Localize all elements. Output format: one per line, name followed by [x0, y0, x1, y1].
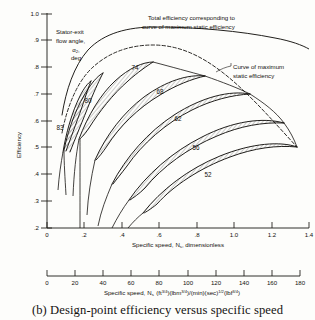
fan-tail-52 [128, 213, 143, 228]
y-tick-label-8: 1.0 [31, 10, 40, 17]
x-primary-title-tail: , dimensionless [182, 241, 224, 248]
x2-tick-label-8: 160 [267, 279, 278, 286]
y-axis-ticks [41, 14, 52, 228]
x2-title-symbol-sub: s [152, 292, 154, 297]
fan-tail-74 [73, 139, 79, 196]
max-static-efficiency-annotation: Curve of maximum static efficiency [216, 63, 284, 79]
fan-tail-62 [98, 184, 112, 226]
x-tick-label-2: .4 [119, 231, 125, 238]
contour-label-74: 74 [131, 64, 139, 71]
x-axis-secondary-tick-labels: 0 20 40 60 80 100 120 140 160 180 [45, 279, 305, 286]
x-axis-primary-ticks [47, 222, 309, 228]
max-static-line2: static efficiency [233, 72, 275, 79]
x2-units-base-2: )(lbm [167, 289, 181, 296]
fan-tail-56 [112, 200, 129, 228]
y-tick-label-3: .5 [34, 143, 40, 150]
x2-tick-label-9: 180 [295, 279, 306, 286]
x-tick-label-3: .6 [156, 231, 162, 238]
fan-tail-80 [64, 150, 66, 195]
x2-units-base-4: (lbf [224, 289, 233, 296]
x-primary-title-text: Specific speed, [132, 241, 174, 248]
total-eff-line1: Total efficiency corresponding to [148, 14, 236, 21]
x2-tick-label-4: 80 [156, 279, 163, 286]
x2-tick-label-7: 140 [239, 279, 250, 286]
svg-text:Specific speed,Ns, dimensionle: Specific speed,Ns, dimensionless [132, 241, 224, 249]
svg-text:Specific speed,Ns(ft3/4)(lbm3/: Specific speed,Ns(ft3/4)(lbm3/4)/(min)(s… [104, 289, 240, 297]
x2-title-text: Specific speed, [104, 289, 146, 296]
stator-exit-line3: deg [71, 54, 81, 61]
contour-band-52 [143, 144, 297, 213]
x-tick-label-1: .2 [81, 231, 87, 238]
contour-label-68: 68 [156, 88, 164, 95]
stator-exit-flow-angle-annotation: Stator-exit flow angle, α2, deg [56, 28, 85, 61]
y-axis-tick-labels: .2 .3 .4 .5 .6 .7 .8 .9 1.0 [31, 10, 40, 231]
y-tick-label-2: .4 [34, 170, 40, 177]
total-eff-line2: curve of maximum static efficiency [142, 23, 236, 30]
x-tick-label-5: 1.0 [230, 231, 239, 238]
y-tick-label-4: .6 [34, 117, 40, 124]
stator-exit-line2: flow angle, [56, 37, 85, 44]
x-tick-label-6: 1.2 [268, 231, 277, 238]
x-axis-primary-tick-labels: 0 .2 .4 .6 .8 1.0 1.2 1.4 [45, 231, 314, 238]
efficiency-contour-chart: .2 .3 .4 .5 .6 .7 .8 .9 1.0 Efficiency 0… [0, 0, 315, 320]
y-tick-label-6: .8 [34, 63, 40, 70]
figure-panel: .2 .3 .4 .5 .6 .7 .8 .9 1.0 Efficiency 0… [0, 0, 315, 320]
contour-label-52: 52 [204, 171, 212, 178]
x2-tick-label-1: 20 [72, 279, 79, 286]
y-tick-label-1: .3 [34, 197, 40, 204]
figure-caption: (b) Design-point efficiency versus speci… [0, 303, 315, 318]
x-tick-label-0: 0 [45, 231, 49, 238]
x2-tick-label-2: 40 [100, 279, 107, 286]
x-axis-primary-title: Specific speed,Ns, dimensionless [132, 241, 224, 249]
x2-tick-label-3: 60 [128, 279, 135, 286]
contour-label-83: 83 [56, 124, 64, 131]
x-tick-label-4: .8 [194, 231, 200, 238]
contour-curve-52-lower [143, 144, 297, 213]
contour-label-56: 56 [192, 144, 200, 151]
fan-tail-68 [87, 160, 95, 215]
max-static-efficiency-curve [62, 45, 297, 147]
y-tick-label-7: .9 [34, 36, 40, 43]
band-closure-62-56 [250, 94, 284, 123]
contour-curve-group [58, 27, 309, 228]
y-tick-label-5: .7 [34, 90, 40, 97]
total-efficiency-annotation: Total efficiency corresponding to curve … [142, 14, 236, 30]
x2-tick-label-0: 0 [45, 279, 49, 286]
x2-units-base-5: ) [238, 289, 240, 296]
stator-exit-line1: Stator-exit [56, 28, 84, 35]
contour-label-80: 80 [84, 97, 92, 104]
y-tick-label-0: .2 [34, 224, 40, 231]
contour-label-62: 62 [174, 115, 182, 122]
x2-tick-label-5: 100 [183, 279, 194, 286]
x-tick-label-7: 1.4 [305, 231, 314, 238]
max-static-line1: Curve of maximum [233, 63, 284, 70]
x-axis-secondary-ticks [47, 270, 300, 276]
fan-tail-83 [58, 152, 63, 190]
band-closure-74-68 [153, 62, 205, 76]
x2-units-base-3: )/(min)(sec) [187, 289, 218, 296]
y-axis-title: Efficiency [15, 131, 22, 158]
x-axis-secondary-title: Specific speed,Ns(ft3/4)(lbm3/4)/(min)(s… [104, 289, 240, 297]
x2-tick-label-6: 120 [211, 279, 222, 286]
